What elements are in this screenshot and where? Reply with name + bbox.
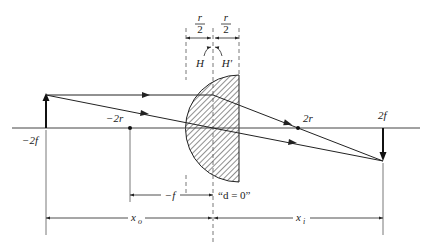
label-d-equals-zero: “d = 0” xyxy=(218,189,251,201)
label-x-o: x xyxy=(130,211,136,223)
thick-lens-ray-diagram: r 2 r 2 H H′ −2f −2r 2r 2f xyxy=(0,0,427,245)
object-arrow xyxy=(43,93,50,128)
label-h: H xyxy=(195,57,205,69)
label-minus-2r: −2r xyxy=(106,112,124,124)
label-x-i-subscript: i xyxy=(303,217,305,226)
r-numerator-right: r xyxy=(224,11,229,23)
half-thickness-dimension: r 2 r 2 xyxy=(186,11,239,38)
label-minus-f: −f xyxy=(165,189,177,201)
label-2r: 2r xyxy=(303,112,314,124)
r-denominator-right: 2 xyxy=(223,23,229,35)
label-2f: 2f xyxy=(378,109,389,121)
image-arrow xyxy=(380,128,387,161)
focal-length-dimension: −f “d = 0” xyxy=(130,189,251,201)
label-x-i: x xyxy=(295,211,301,223)
point-minus-2r xyxy=(128,126,132,130)
point-2r xyxy=(296,126,300,130)
r-numerator-left: r xyxy=(198,11,203,23)
principal-plane-labels: H H′ xyxy=(195,47,233,69)
image-distance-dimension: x i xyxy=(214,211,383,226)
label-x-o-subscript: o xyxy=(138,217,142,226)
object-distance-dimension: x o xyxy=(46,211,212,226)
r-denominator-left: 2 xyxy=(197,23,203,35)
label-h-prime: H′ xyxy=(221,57,233,69)
label-minus-2f: −2f xyxy=(22,134,40,146)
